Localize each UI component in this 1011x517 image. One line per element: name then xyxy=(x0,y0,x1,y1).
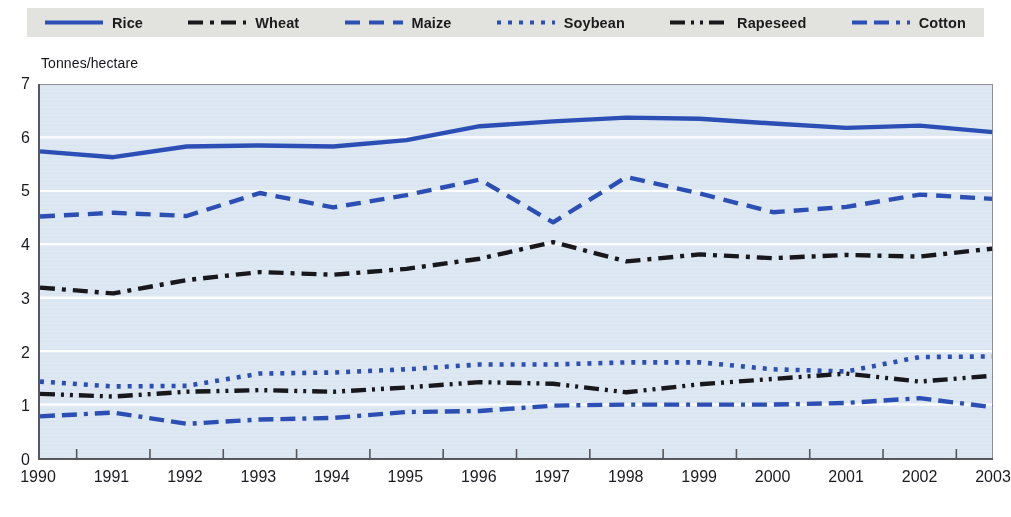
x-tick-label: 1994 xyxy=(314,468,350,486)
legend-item-soybean[interactable]: Soybean xyxy=(497,15,625,31)
x-tick-label: 2003 xyxy=(975,468,1011,486)
y-tick-label: 7 xyxy=(4,75,30,93)
x-tick-label: 1998 xyxy=(608,468,644,486)
x-tick-label: 1995 xyxy=(388,468,424,486)
line-dashed-icon xyxy=(345,17,403,28)
legend-label: Rapeseed xyxy=(737,15,806,31)
x-tick-label: 1999 xyxy=(681,468,717,486)
x-tick-label: 1990 xyxy=(20,468,56,486)
line-dash-dot-dot-icon xyxy=(670,17,728,28)
legend-label: Soybean xyxy=(564,15,625,31)
legend-item-wheat[interactable]: Wheat xyxy=(188,15,299,31)
legend-label: Maize xyxy=(412,15,452,31)
y-tick-label: 4 xyxy=(4,236,30,254)
x-tick-label: 2001 xyxy=(828,468,864,486)
x-tick-label: 2000 xyxy=(755,468,791,486)
legend-item-rice[interactable]: Rice xyxy=(45,15,143,31)
legend-item-cotton[interactable]: Cotton xyxy=(852,15,966,31)
y-tick-label: 2 xyxy=(4,344,30,362)
legend-item-maize[interactable]: Maize xyxy=(345,15,452,31)
y-tick-label: 3 xyxy=(4,290,30,308)
line-dash-dot-icon xyxy=(188,17,246,28)
chart-legend: RiceWheatMaizeSoybeanRapeseedCotton xyxy=(27,8,984,37)
legend-item-rapeseed[interactable]: Rapeseed xyxy=(670,15,806,31)
x-axis-tick-labels: 1990199119921993199419951996199719981999… xyxy=(38,468,993,498)
x-tick-label: 1991 xyxy=(94,468,130,486)
chart-plot-area xyxy=(38,84,993,460)
x-axis-ticks xyxy=(40,84,993,458)
y-tick-label: 5 xyxy=(4,182,30,200)
x-tick-label: 1992 xyxy=(167,468,203,486)
y-tick-label: 1 xyxy=(4,397,30,415)
y-tick-label: 6 xyxy=(4,129,30,147)
line-solid-icon xyxy=(45,17,103,28)
legend-label: Rice xyxy=(112,15,143,31)
x-tick-label: 1997 xyxy=(534,468,570,486)
x-tick-label: 1993 xyxy=(241,468,277,486)
line-dash-dash-dot-icon xyxy=(852,17,910,28)
y-axis-tick-labels: 01234567 xyxy=(0,84,30,460)
legend-label: Wheat xyxy=(255,15,299,31)
x-tick-label: 2002 xyxy=(902,468,938,486)
y-tick-label: 0 xyxy=(4,451,30,469)
line-dotted-icon xyxy=(497,17,555,28)
legend-label: Cotton xyxy=(919,15,966,31)
x-tick-label: 1996 xyxy=(461,468,497,486)
y-axis-unit-label: Tonnes/hectare xyxy=(41,55,138,71)
